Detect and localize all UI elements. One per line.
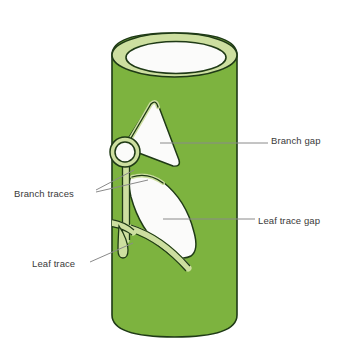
cut-rim xyxy=(112,33,237,77)
label-leaf-trace: Leaf trace xyxy=(32,258,75,269)
label-branch-gap: Branch gap xyxy=(271,135,321,146)
hollow-core xyxy=(126,42,226,74)
branch-trace-circle xyxy=(110,137,140,167)
botanical-diagram-figure: Branch gap Leaf trace gap Branch traces … xyxy=(0,0,345,362)
label-branch-traces: Branch traces xyxy=(14,188,74,199)
stem-diagram-svg xyxy=(0,0,345,362)
branch-trace-circle-inner xyxy=(115,142,135,162)
label-leaf-trace-gap: Leaf trace gap xyxy=(258,215,320,226)
